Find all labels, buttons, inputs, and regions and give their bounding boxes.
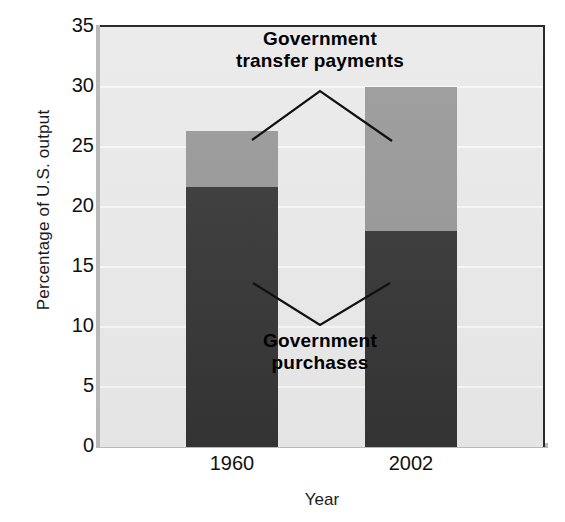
- gridline-30: [100, 86, 543, 88]
- gridline-5: [100, 386, 543, 388]
- x-tick-1960: 1960: [172, 452, 292, 475]
- y-axis-tick-labels: 35 30 25 20 15 10 5 0: [42, 0, 94, 522]
- gridline-20: [100, 206, 543, 208]
- annotation-transfer-payments: Government transfer payments: [150, 28, 490, 72]
- annotation-purchases-line2: purchases: [160, 352, 480, 374]
- annotation-transfers-line2: transfer payments: [150, 50, 490, 72]
- annotation-government-purchases: Government purchases: [160, 330, 480, 374]
- y-tick-5: 5: [48, 375, 94, 395]
- bar-1960-transfers-segment: [186, 131, 278, 186]
- bar-2002: [365, 87, 457, 447]
- bar-2002-transfers-segment: [365, 87, 457, 231]
- bar-1960-purchases-segment: [186, 187, 278, 447]
- y-tick-35: 35: [48, 15, 94, 35]
- annotation-purchases-line1: Government: [160, 330, 480, 352]
- gridline-10: [100, 326, 543, 328]
- bar-1960: [186, 131, 278, 447]
- x-axis-title: Year: [100, 490, 544, 510]
- y-tick-10: 10: [48, 315, 94, 335]
- annotation-transfers-line1: Government: [150, 28, 490, 50]
- y-tick-0: 0: [48, 435, 94, 455]
- y-tick-25: 25: [48, 135, 94, 155]
- plot-area: [100, 25, 545, 447]
- x-tick-2002: 2002: [351, 452, 471, 475]
- y-tick-15: 15: [48, 255, 94, 275]
- gridline-25: [100, 146, 543, 148]
- gridline-15: [100, 266, 543, 268]
- y-tick-30: 30: [48, 75, 94, 95]
- y-tick-20: 20: [48, 195, 94, 215]
- stacked-bar-chart: Percentage of U.S. output 35 30 25 20 15…: [0, 0, 565, 522]
